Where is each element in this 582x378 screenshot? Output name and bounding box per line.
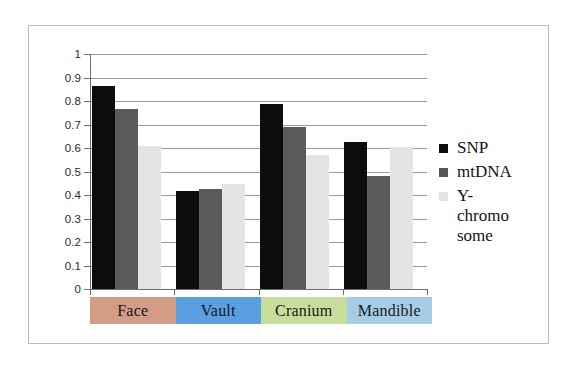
y-axis-tick-label: 0.1 bbox=[65, 260, 81, 272]
y-axis-tick-label: 0.5 bbox=[65, 166, 81, 178]
category-label-face: Face bbox=[90, 297, 176, 324]
legend: SNPmtDNAY- chromo some bbox=[439, 138, 547, 250]
bar-vault-ychromo[interactable] bbox=[222, 184, 245, 289]
bar-group-vault bbox=[174, 54, 258, 289]
bar-face-mtdna[interactable] bbox=[115, 109, 138, 289]
legend-label: mtDNA bbox=[457, 162, 512, 182]
legend-swatch-icon bbox=[439, 168, 448, 177]
bar-cranium-snp[interactable] bbox=[260, 104, 283, 289]
y-axis-tick-label: 0.6 bbox=[65, 142, 81, 154]
y-axis-tick-label: 0.2 bbox=[65, 236, 81, 248]
bar-mandible-mtdna[interactable] bbox=[367, 176, 390, 289]
x-axis-tick bbox=[174, 289, 175, 295]
category-label-mandible: Mandible bbox=[347, 297, 433, 324]
legend-swatch-icon bbox=[439, 144, 448, 153]
x-axis-tick bbox=[90, 289, 91, 295]
plot-region bbox=[90, 54, 427, 289]
bar-cranium-ychromo[interactable] bbox=[306, 155, 329, 289]
y-axis-tick-label: 1 bbox=[75, 48, 82, 60]
category-axis-labels: FaceVaultCraniumMandible bbox=[90, 297, 432, 324]
y-axis-tick-label: 0.4 bbox=[65, 189, 81, 201]
y-axis-tick-labels: 10.90.80.70.60.50.40.30.20.10 bbox=[37, 26, 81, 345]
x-axis-tick bbox=[259, 289, 260, 295]
y-axis-tick-label: 0.7 bbox=[65, 119, 81, 131]
category-label-vault: Vault bbox=[176, 297, 262, 324]
bar-chart: 10.90.80.70.60.50.40.30.20.10 FaceVaultC… bbox=[29, 26, 550, 345]
y-axis-tick-label: 0 bbox=[75, 283, 82, 295]
bar-mandible-snp[interactable] bbox=[344, 142, 367, 289]
bar-mandible-ychromo[interactable] bbox=[390, 147, 413, 289]
bar-vault-snp[interactable] bbox=[176, 191, 199, 289]
y-axis-tick-label: 0.3 bbox=[65, 213, 81, 225]
y-axis-tick-label: 0.9 bbox=[65, 72, 81, 84]
legend-label: SNP bbox=[457, 138, 488, 158]
y-axis-tick-label: 0.8 bbox=[65, 95, 81, 107]
legend-label: Y- chromo some bbox=[457, 186, 509, 246]
bar-face-snp[interactable] bbox=[92, 86, 115, 289]
legend-item-snp[interactable]: SNP bbox=[439, 138, 547, 158]
x-axis-tick bbox=[427, 289, 428, 295]
legend-item-ychromo[interactable]: Y- chromo some bbox=[439, 186, 547, 246]
bar-face-ychromo[interactable] bbox=[138, 146, 161, 289]
figure-frame: 10.90.80.70.60.50.40.30.20.10 FaceVaultC… bbox=[28, 25, 549, 344]
category-label-cranium: Cranium bbox=[261, 297, 347, 324]
bar-vault-mtdna[interactable] bbox=[199, 189, 222, 289]
bar-group-face bbox=[90, 54, 174, 289]
x-axis-tick bbox=[343, 289, 344, 295]
bar-group-mandible bbox=[343, 54, 427, 289]
bar-cranium-mtdna[interactable] bbox=[283, 127, 306, 289]
legend-swatch-icon bbox=[439, 192, 448, 201]
legend-item-mtdna[interactable]: mtDNA bbox=[439, 162, 547, 182]
bar-group-cranium bbox=[259, 54, 343, 289]
